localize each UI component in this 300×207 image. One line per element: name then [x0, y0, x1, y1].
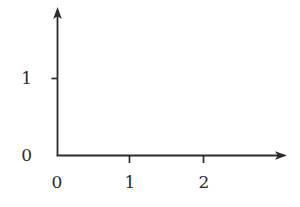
chart-figure: 0 1 0 1 2	[0, 0, 300, 207]
x-tick-label-0: 0	[42, 174, 72, 191]
x-tick-label-1: 1	[115, 174, 145, 191]
x-tick-label-2: 2	[189, 174, 219, 191]
y-tick-label-0: 0	[8, 147, 32, 164]
y-tick-label-1: 1	[8, 70, 32, 87]
